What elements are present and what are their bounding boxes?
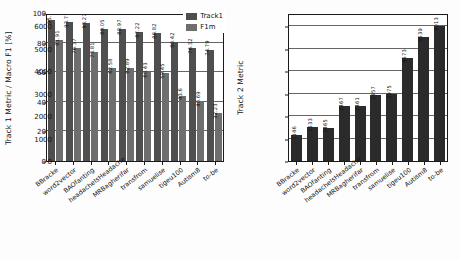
bar[interactable]: 89.05 xyxy=(101,29,108,161)
bar-value-label: 74.79 xyxy=(205,41,210,56)
bar[interactable]: 80.42 xyxy=(171,42,178,161)
bar-group: 74.7932.23 xyxy=(205,15,223,161)
y-tick-label: 5000 xyxy=(34,46,52,54)
y-tick-mark xyxy=(285,139,288,140)
bar[interactable]: 81.91 xyxy=(56,40,63,161)
x-tick-mark xyxy=(376,162,377,165)
bar-value-label: 2467 xyxy=(339,97,344,111)
bar-value-label: 87.22 xyxy=(135,22,140,37)
bar-value-label: 89.05 xyxy=(99,20,104,35)
legend-label: Track1 xyxy=(200,12,223,20)
bar-group: 89.0562.58 xyxy=(100,15,118,161)
bar-group: 1533 xyxy=(305,15,321,161)
bar-value-label: 40.69 xyxy=(195,91,200,106)
bar-group: 2957 xyxy=(368,15,384,161)
x-tick-mark xyxy=(197,162,198,165)
bar-value-label: 1533 xyxy=(307,118,312,132)
bar-value-label: 43.6 xyxy=(178,89,183,101)
x-tick-mark xyxy=(296,162,297,165)
bar-group: 4573 xyxy=(400,15,416,161)
bar-value-label: 32.23 xyxy=(213,104,218,119)
legend-item[interactable]: Track1 xyxy=(186,12,223,20)
y-tick-mark xyxy=(285,49,288,50)
bar-container: 95.181.9193.7176.3793.2773.8189.0562.588… xyxy=(47,15,223,161)
bar-group: 93.7176.37 xyxy=(65,15,83,161)
bar[interactable]: 87.22 xyxy=(136,32,143,161)
bar[interactable]: 2957 xyxy=(370,95,381,161)
bar[interactable]: 6013 xyxy=(434,26,445,161)
y-tick-label: 2000 xyxy=(34,113,52,121)
legend-label: F1m xyxy=(200,23,215,31)
bar[interactable]: 2461 xyxy=(355,106,366,161)
bar-value-label: 1146 xyxy=(292,127,297,141)
x-tick-mark xyxy=(360,162,361,165)
bar[interactable]: 32.23 xyxy=(215,113,222,161)
bar[interactable]: 2975 xyxy=(386,94,397,161)
y-tick-mark xyxy=(43,132,46,133)
bar-value-label: 5539 xyxy=(418,28,423,42)
bar-value-label: 81.91 xyxy=(55,30,60,45)
bar-value-label: 76.37 xyxy=(72,38,77,53)
bar-value-label: 62.58 xyxy=(107,59,112,74)
bar-value-label: 93.27 xyxy=(82,14,87,29)
legend-item[interactable]: F1m xyxy=(186,23,223,31)
bar[interactable]: 59.45 xyxy=(162,73,169,161)
bar-group: 76.3240.69 xyxy=(188,15,206,161)
bar[interactable]: 43.6 xyxy=(179,96,186,161)
bar-value-label: 80.42 xyxy=(170,32,175,47)
bar[interactable]: 62.58 xyxy=(109,68,116,161)
y-tick-label: 0 xyxy=(48,158,52,166)
bar[interactable]: 1146 xyxy=(291,135,302,161)
x-tick-mark xyxy=(312,162,313,165)
bar[interactable]: 40.69 xyxy=(197,101,204,161)
bar-value-label: 2975 xyxy=(386,85,391,99)
bar-value-label: 88.97 xyxy=(117,20,122,35)
x-tick-mark xyxy=(440,162,441,165)
x-tick-mark xyxy=(55,162,56,165)
x-tick-mark xyxy=(162,162,163,165)
y-tick-mark xyxy=(43,43,46,44)
x-tick-mark xyxy=(408,162,409,165)
bar[interactable]: 76.37 xyxy=(74,48,81,161)
y-tick-label: 6000 xyxy=(34,23,52,31)
bar[interactable]: 60.43 xyxy=(144,72,151,161)
track2-plot-area: 1146153314652467246129572975457355396013 xyxy=(288,14,448,162)
bar[interactable]: 1465 xyxy=(323,128,334,161)
bar[interactable]: 5539 xyxy=(418,37,429,161)
track1-plot-area: 95.181.9193.7176.3793.2773.8189.0562.588… xyxy=(46,14,224,162)
legend-swatch xyxy=(186,24,197,31)
x-tick-mark xyxy=(126,162,127,165)
y-tick-label: 4000 xyxy=(34,68,52,76)
y-tick-mark xyxy=(43,14,46,15)
bar[interactable]: 2467 xyxy=(339,106,350,161)
bar-group: 80.4243.6 xyxy=(170,15,188,161)
bar[interactable]: 1533 xyxy=(307,127,318,161)
bar-value-label: 86.82 xyxy=(152,23,157,38)
bar-value-label: 6013 xyxy=(434,17,439,31)
bar[interactable]: 86.82 xyxy=(154,33,161,161)
bar[interactable]: 62.89 xyxy=(127,68,134,161)
bar-value-label: 1465 xyxy=(323,119,328,133)
bar-value-label: 62.89 xyxy=(125,58,130,73)
y-tick-mark xyxy=(285,162,288,163)
bar[interactable]: 88.97 xyxy=(119,29,126,161)
y-tick-mark xyxy=(43,162,46,163)
x-tick-mark xyxy=(73,162,74,165)
bar-value-label: 60.43 xyxy=(143,62,148,77)
x-tick-mark xyxy=(144,162,145,165)
bar-group: 5539 xyxy=(415,15,431,161)
y-tick-mark xyxy=(285,72,288,73)
y-tick-label: 1000 xyxy=(34,136,52,144)
track1-figure: Track 1 Metric / Macro F1 [%] 95.181.919… xyxy=(0,0,232,260)
bar[interactable]: 73.81 xyxy=(91,52,98,161)
y-tick-mark xyxy=(285,94,288,95)
x-tick-mark xyxy=(392,162,393,165)
bar-group: 2461 xyxy=(352,15,368,161)
track2-figure: Track 2 Metric 1146153314652467246129572… xyxy=(232,0,460,260)
x-tick-mark xyxy=(215,162,216,165)
bar-value-label: 93.71 xyxy=(64,14,69,28)
bar-group: 2975 xyxy=(384,15,400,161)
bar-value-label: 76.32 xyxy=(187,38,192,53)
bar-group: 1465 xyxy=(321,15,337,161)
bar[interactable]: 4573 xyxy=(402,58,413,161)
